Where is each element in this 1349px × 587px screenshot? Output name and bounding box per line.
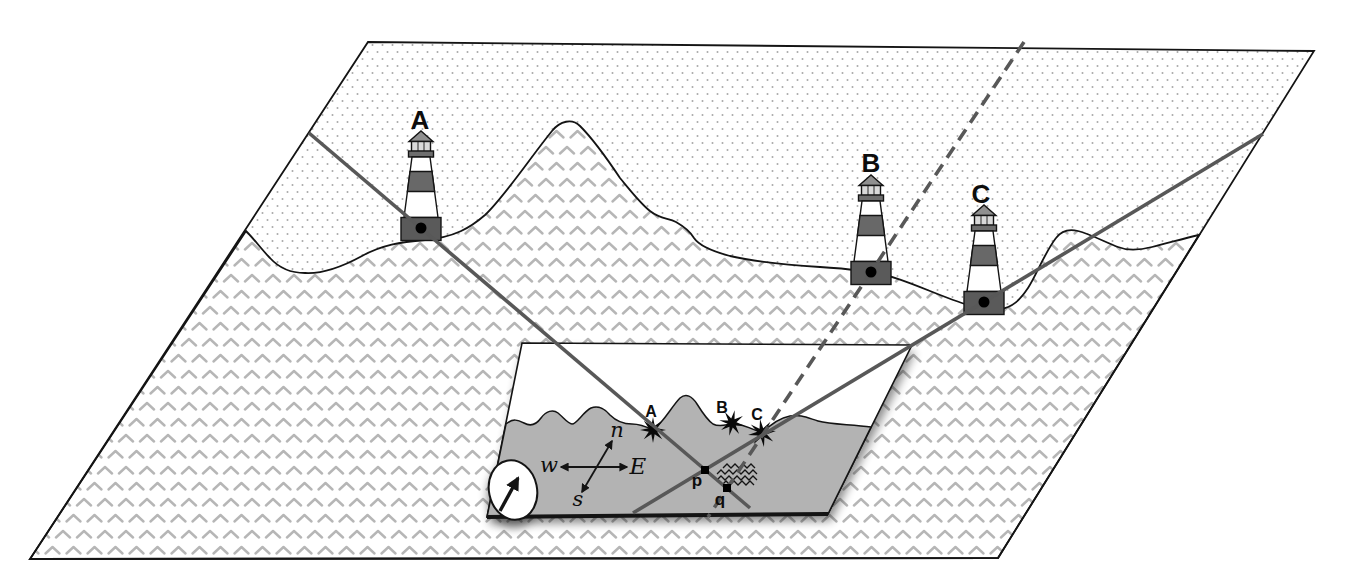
chart-star-c-label: C xyxy=(751,406,763,423)
lighthouse-c-dot xyxy=(979,297,990,308)
lighthouse-c-label: C xyxy=(972,179,991,209)
compass-west-label: w xyxy=(540,453,558,477)
fix-point-p-label: p xyxy=(692,471,702,490)
coast-chart-diagram: A B C n s w E A B xyxy=(0,0,1349,587)
compass-north-label: n xyxy=(610,418,624,442)
fix-point-q-label: q xyxy=(715,490,725,509)
triangulation-figure: A B C n s w E A B xyxy=(0,0,1349,587)
lighthouse-a-label: A xyxy=(411,105,430,135)
compass-south-label: s xyxy=(573,487,584,511)
chart-star-b-label: B xyxy=(716,399,728,416)
compass-east-label: E xyxy=(629,453,647,479)
chart-star-a-label: A xyxy=(645,403,657,420)
lighthouse-a-dot xyxy=(416,223,427,234)
lighthouse-b-dot xyxy=(866,267,877,278)
chart-star-a xyxy=(640,417,666,443)
lighthouse-b-label: B xyxy=(862,148,881,178)
